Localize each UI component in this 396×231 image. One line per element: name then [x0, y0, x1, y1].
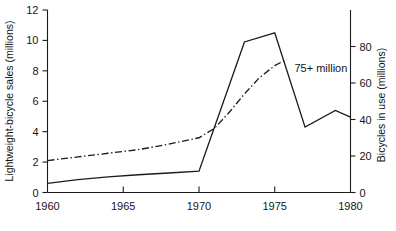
right-tick-label: 40: [360, 114, 372, 126]
left-tick-label: 2: [32, 156, 38, 168]
series-group: [48, 33, 351, 184]
left-tick-label: 0: [32, 187, 38, 199]
chart-annotations: 75+ million: [294, 62, 347, 74]
right-axis-group: 020406080 Bicycles in use (millions): [351, 10, 388, 199]
left-axis-ticks: 024681012: [26, 4, 47, 199]
x-axis-ticks: 19601965197019751980: [35, 187, 362, 212]
dual-axis-line-chart: 024681012 Lightweight-bicycle sales (mil…: [0, 0, 396, 231]
right-axis-ticks: 020406080: [351, 41, 372, 199]
x-tick-label: 1980: [338, 200, 362, 212]
x-tick-label: 1960: [35, 200, 59, 212]
left-tick-label: 6: [32, 95, 38, 107]
left-tick-label: 10: [26, 34, 38, 46]
right-tick-label: 20: [360, 150, 372, 162]
right-axis-title: Bicycles in use (millions): [375, 48, 387, 162]
left-axis-group: 024681012 Lightweight-bicycle sales (mil…: [3, 4, 48, 199]
left-tick-label: 8: [32, 65, 38, 77]
x-tick-label: 1970: [187, 200, 211, 212]
x-tick-label: 1965: [111, 200, 135, 212]
series-lightweight-bicycle-sales: [48, 33, 351, 184]
right-tick-label: 60: [360, 77, 372, 89]
annotation-label: 75+ million: [294, 62, 347, 74]
x-tick-label: 1975: [263, 200, 287, 212]
chart-container: 024681012 Lightweight-bicycle sales (mil…: [0, 0, 396, 231]
left-tick-label: 4: [32, 126, 38, 138]
series-bicycles-in-use: [48, 59, 287, 160]
right-tick-label: 80: [360, 41, 372, 53]
right-tick-label: 0: [360, 187, 366, 199]
left-tick-label: 12: [26, 4, 38, 16]
x-axis-group: 19601965197019751980: [35, 187, 362, 212]
left-axis-title: Lightweight-bicycle sales (millions): [3, 20, 15, 181]
